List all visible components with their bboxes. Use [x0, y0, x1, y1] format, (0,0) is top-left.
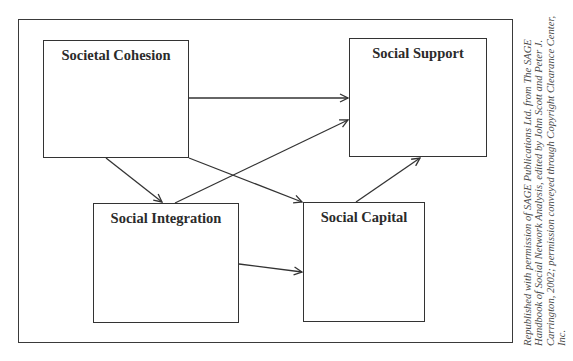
arrow-societal-cohesion-to-social-capital: [189, 158, 302, 202]
arrow-social-capital-to-social-support: [356, 158, 420, 202]
node-social-support: Social Support: [349, 38, 487, 157]
permission-caption: Republished with permission of SAGE Publ…: [522, 6, 568, 346]
node-social-integration: Social Integration: [93, 203, 239, 323]
node-societal-cohesion: Societal Cohesion: [43, 40, 189, 158]
node-label: Social Integration: [94, 210, 238, 227]
arrow-social-integration-to-social-capital: [239, 264, 302, 272]
node-label: Social Support: [350, 45, 486, 62]
arrow-social-integration-to-social-support: [175, 120, 348, 203]
node-label: Societal Cohesion: [44, 47, 188, 64]
node-label: Social Capital: [304, 209, 424, 226]
node-social-capital: Social Capital: [303, 202, 425, 322]
arrow-societal-cohesion-to-social-integration: [106, 158, 162, 202]
